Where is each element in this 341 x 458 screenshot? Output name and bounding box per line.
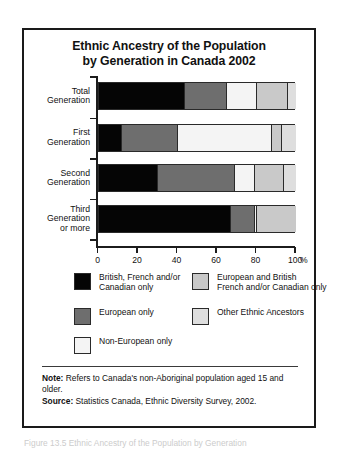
bar-segment — [99, 83, 186, 109]
bar-segment — [255, 165, 285, 191]
y-axis-tick — [90, 158, 97, 160]
legend-label-line: British, French and/or — [99, 272, 234, 282]
legend-swatch — [192, 273, 209, 290]
chart-title-line-1: Ethnic Ancestry of the Population — [24, 39, 314, 54]
x-axis-tick-label: 60 — [201, 255, 231, 265]
x-axis-tick — [294, 247, 296, 253]
note-block: Note: Refers to Canada's non-Aboriginal … — [42, 373, 304, 407]
bar-segment — [235, 165, 255, 191]
source-row: Source: Statistics Canada, Ethnic Divers… — [42, 396, 304, 407]
legend-label-line: European only — [99, 307, 234, 317]
x-axis-tick — [97, 247, 99, 253]
y-axis-tick — [90, 199, 97, 201]
bar-3 — [98, 164, 296, 192]
bar-segment — [158, 165, 235, 191]
bar-segment — [122, 125, 177, 151]
note-text: Refers to Canada's non-Aboriginal popula… — [42, 373, 283, 394]
legend-label: Non-European only — [99, 336, 234, 346]
bar-segment — [99, 206, 231, 232]
legend-label: European and BritishFrench and/or Canadi… — [217, 272, 341, 292]
bar-segment — [282, 125, 296, 151]
bar-2 — [98, 124, 296, 152]
figure-caption: Figure 13.5 Ethnic Ancestry of the Popul… — [24, 438, 324, 449]
legend-swatch — [74, 308, 91, 325]
bar-segment — [257, 206, 297, 232]
y-axis-label-line: Generation — [24, 96, 90, 106]
x-axis-tick-label: 20 — [122, 255, 152, 265]
y-axis-tick — [90, 239, 97, 241]
y-axis-label-1: TotalGeneration — [24, 87, 90, 106]
legend-swatch — [192, 308, 209, 325]
figure-panel: Ethnic Ancestry of the Population by Gen… — [22, 28, 316, 428]
source-text: Statistics Canada, Ethnic Diversity Surv… — [73, 396, 256, 406]
bar-segment — [227, 83, 257, 109]
x-axis-line — [96, 246, 295, 248]
bar-segment — [284, 165, 296, 191]
legend-label-line: Non-European only — [99, 336, 234, 346]
legend-label: British, French and/orCanadian only — [99, 272, 234, 292]
note-divider — [42, 366, 298, 367]
x-axis-tick — [255, 247, 257, 253]
source-label: Source: — [42, 396, 73, 406]
chart-legend: British, French and/orCanadian onlyEurop… — [24, 270, 314, 354]
bar-segment — [178, 125, 273, 151]
note-row: Note: Refers to Canada's non-Aboriginal … — [42, 373, 304, 396]
bar-segment — [257, 83, 289, 109]
legend-label-line: French and/or Canadian only — [217, 282, 341, 292]
y-axis-label-3: SecondGeneration — [24, 169, 90, 188]
x-axis-tick — [215, 247, 217, 253]
bar-chart-plot: TotalGenerationFirstGenerationSecondGene… — [24, 76, 314, 262]
x-axis-tick-label: 80 — [241, 255, 271, 265]
y-axis-label-line: or more — [24, 224, 90, 234]
y-axis-label-line: Generation — [24, 178, 90, 188]
y-axis-tick — [90, 76, 97, 78]
legend-label: European only — [99, 307, 234, 317]
bar-segment — [231, 206, 255, 232]
bar-segment — [272, 125, 282, 151]
x-axis-tick — [176, 247, 178, 253]
bar-segment — [288, 83, 296, 109]
x-axis-tick-label: 40 — [162, 255, 192, 265]
legend-swatch — [74, 337, 91, 354]
y-axis-label-4: ThirdGenerationor more — [24, 205, 90, 234]
y-axis-label-2: FirstGeneration — [24, 128, 90, 147]
x-axis-unit-label: % — [300, 255, 308, 265]
bar-1 — [98, 82, 296, 110]
chart-title: Ethnic Ancestry of the Population by Gen… — [24, 39, 314, 69]
bar-segment — [185, 83, 226, 109]
y-axis-label-line: Generation — [24, 138, 90, 148]
legend-label-line: European and British — [217, 272, 341, 282]
y-axis-tick — [90, 118, 97, 120]
bar-segment — [99, 125, 123, 151]
legend-swatch — [74, 273, 91, 290]
chart-title-line-2: by Generation in Canada 2002 — [24, 54, 314, 69]
legend-label: Other Ethnic Ancestors — [217, 307, 341, 317]
legend-label-line: Canadian only — [99, 282, 234, 292]
bar-4 — [98, 205, 296, 233]
x-axis-tick — [136, 247, 138, 253]
x-axis-tick-label: 0 — [83, 255, 113, 265]
note-label: Note: — [42, 373, 63, 383]
bar-segment — [99, 165, 158, 191]
legend-label-line: Other Ethnic Ancestors — [217, 307, 341, 317]
